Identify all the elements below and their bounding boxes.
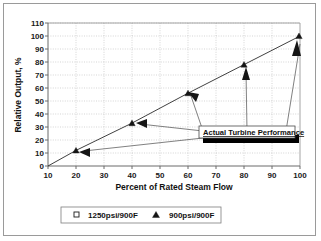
y-tick-label: 30 [35, 123, 44, 132]
y-tick-label: 0 [40, 162, 45, 171]
y-tick-label: 20 [35, 136, 44, 145]
x-tick-label: 100 [293, 171, 307, 180]
y-tick-label: 60 [35, 84, 44, 93]
y-tick-label: 90 [35, 45, 44, 54]
x-tick-label: 30 [100, 171, 109, 180]
x-tick-label: 40 [128, 171, 137, 180]
y-tick-label: 50 [35, 97, 44, 106]
axis-lines [48, 23, 300, 166]
vertical-gridlines [76, 23, 272, 166]
x-tick-label: 10 [44, 171, 53, 180]
y-axis-title: Relative Output, % [13, 57, 23, 133]
legend-label-900psi: 900psi/900F [169, 211, 214, 220]
data-point-marker [129, 120, 135, 126]
y-tick-label: 40 [35, 110, 44, 119]
legend[interactable]: 1250psi/900F 900psi/900F [61, 207, 221, 223]
y-axis-tick-labels: 110 100 90 80 70 60 50 40 30 20 10 0 [31, 19, 45, 171]
y-tick-label: 70 [35, 71, 44, 80]
x-tick-label: 90 [268, 171, 277, 180]
data-point-marker [73, 147, 79, 153]
annotation-callout[interactable]: Actual Turbine Performance [199, 126, 304, 143]
open-square-marker-icon [74, 212, 79, 217]
y-tick-label: 80 [35, 58, 44, 67]
legend-label-1250psi: 1250psi/900F [88, 211, 138, 220]
figure-frame: 110 100 90 80 70 60 50 40 30 20 10 0 [3, 3, 316, 236]
y-tick-label: 10 [35, 149, 44, 158]
callout-label: Actual Turbine Performance [203, 128, 304, 137]
x-axis-tick-labels: 10 20 30 40 50 60 70 80 90 100 [44, 171, 308, 180]
chart-container: 110 100 90 80 70 60 50 40 30 20 10 0 [4, 4, 317, 237]
x-tick-label: 50 [156, 171, 165, 180]
x-tick-label: 60 [184, 171, 193, 180]
x-tick-label: 80 [240, 171, 249, 180]
data-point-marker [241, 62, 247, 68]
x-axis-title: Percent of Rated Steam Flow [115, 182, 233, 192]
y-tick-label: 100 [31, 32, 45, 41]
data-point-marker [296, 33, 302, 39]
x-tick-label: 70 [212, 171, 221, 180]
y-tick-label: 110 [31, 19, 44, 28]
plot-area-border [48, 23, 300, 166]
x-tick-label: 20 [72, 171, 81, 180]
